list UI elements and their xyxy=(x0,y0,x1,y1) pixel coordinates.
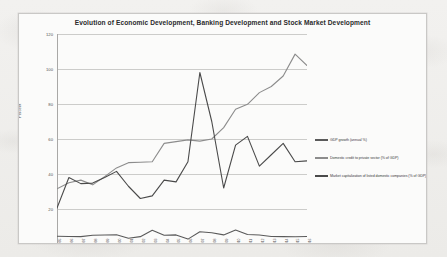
y-axis-tick-label: 40 xyxy=(19,172,53,177)
y-axis-tick-label: 100 xyxy=(19,67,53,72)
y-axis-tick-label: 120 xyxy=(19,32,53,37)
chart-container: Evolution of Economic Development, Banki… xyxy=(18,13,427,244)
y-axis-tick-label: 20 xyxy=(19,207,53,212)
legend-item-label: Domestic credit to private sector (% of … xyxy=(330,156,399,160)
legend-item[interactable]: Market capitalization of listed domestic… xyxy=(315,174,427,178)
series-line xyxy=(57,230,307,239)
chart-title: Evolution of Economic Development, Banki… xyxy=(19,19,426,26)
y-axis-tick-label: 80 xyxy=(19,102,53,107)
x-axis-tick-label: 2016 xyxy=(308,239,312,244)
legend-color-swatch xyxy=(315,175,328,176)
legend-item-label: Market capitalization of listed domestic… xyxy=(330,174,426,178)
legend-color-swatch xyxy=(315,139,328,140)
legend-item[interactable]: Domestic credit to private sector (% of … xyxy=(315,156,427,160)
y-axis-tick-label: 0 xyxy=(19,242,53,244)
legend-color-swatch xyxy=(315,157,328,158)
legend-item-label: GDP growth (annual %) xyxy=(330,138,367,142)
chart-legend: GDP growth (annual %)Domestic credit to … xyxy=(315,138,427,192)
plot-area xyxy=(57,34,307,244)
legend-item[interactable]: GDP growth (annual %) xyxy=(315,138,427,142)
y-axis-tick-label: 60 xyxy=(19,137,53,142)
series-line xyxy=(57,54,307,189)
